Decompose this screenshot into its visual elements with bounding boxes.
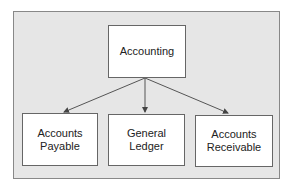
node-accounts-receivable: AccountsReceivable xyxy=(195,115,273,167)
node-label-line2: Receivable xyxy=(207,141,261,154)
arrow-to-payable xyxy=(64,78,145,112)
arrow-to-receivable xyxy=(145,78,228,113)
node-label-line1: Accounts xyxy=(207,128,261,141)
node-general-ledger: GeneralLedger xyxy=(108,114,185,166)
node-label-line1: General xyxy=(127,127,166,140)
node-label-line2: Ledger xyxy=(127,140,166,153)
node-label-line2: Payable xyxy=(37,140,82,153)
node-accounting: Accounting xyxy=(108,25,186,78)
node-label-line1: Accounts xyxy=(37,127,82,140)
node-accounts-payable: AccountsPayable xyxy=(22,113,98,166)
node-label: Accounting xyxy=(120,45,174,58)
